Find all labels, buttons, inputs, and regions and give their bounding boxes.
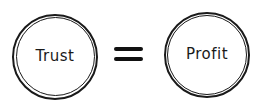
trust-label: Trust (12, 47, 98, 65)
equals-bar-bottom (114, 57, 143, 61)
equals-bar-top (114, 47, 143, 51)
profit-label: Profit (164, 45, 250, 63)
